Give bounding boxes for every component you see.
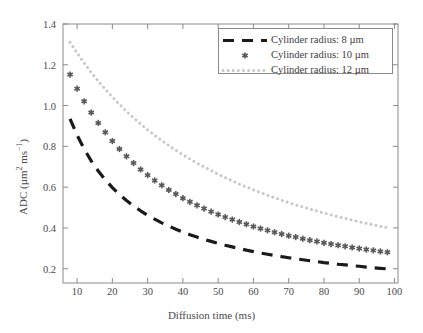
y-tick-label: 0.2 bbox=[43, 263, 56, 274]
x-axis-title: Diffusion time (ms) bbox=[0, 309, 423, 321]
x-tick-label: 10 bbox=[72, 286, 83, 297]
x-tick-label: 30 bbox=[142, 286, 153, 297]
x-tick-label: 40 bbox=[178, 286, 189, 297]
legend-label-2: Cylinder radius: 12 µm bbox=[271, 63, 369, 76]
y-tick-label: 0.8 bbox=[43, 141, 56, 152]
marker-asterisk bbox=[145, 172, 150, 178]
x-tick-label: 60 bbox=[248, 286, 259, 297]
marker-asterisk bbox=[138, 166, 143, 172]
marker-asterisk bbox=[81, 98, 86, 104]
marker-asterisk bbox=[307, 237, 312, 243]
y-tick-label: 0.6 bbox=[43, 182, 56, 193]
marker-asterisk bbox=[237, 219, 242, 225]
chart-figure: 0.20.40.60.81.01.21.4 102030405060708090… bbox=[0, 0, 423, 333]
legend-sample-glyph bbox=[219, 64, 271, 77]
marker-asterisk bbox=[215, 211, 220, 217]
marker-asterisk bbox=[74, 86, 79, 92]
legend-item-2[interactable]: Cylinder radius: 12 µm bbox=[219, 62, 392, 77]
marker-asterisk bbox=[173, 191, 178, 197]
legend-label-1: Cylinder radius: 10 µm bbox=[271, 48, 369, 61]
marker-asterisk bbox=[321, 240, 326, 246]
marker-asterisk bbox=[117, 146, 122, 152]
marker-asterisk bbox=[286, 233, 291, 239]
marker-asterisk bbox=[349, 244, 354, 250]
legend-sample-glyph bbox=[219, 34, 271, 47]
marker-asterisk bbox=[242, 52, 247, 58]
marker-asterisk bbox=[131, 160, 136, 166]
marker-asterisk bbox=[194, 202, 199, 208]
marker-asterisk bbox=[67, 71, 72, 77]
marker-asterisk bbox=[300, 236, 305, 242]
marker-asterisk bbox=[328, 241, 333, 247]
x-tick-label: 70 bbox=[283, 286, 294, 297]
x-tick-label: 100 bbox=[387, 286, 403, 297]
marker-asterisk bbox=[335, 242, 340, 248]
x-tick-label: 90 bbox=[354, 286, 365, 297]
marker-asterisk bbox=[124, 153, 129, 159]
legend-swatch-1 bbox=[219, 48, 271, 61]
marker-asterisk bbox=[364, 246, 369, 252]
marker-asterisk bbox=[314, 238, 319, 244]
legend-swatch-0 bbox=[219, 33, 271, 46]
marker-asterisk bbox=[152, 177, 157, 183]
y-tick-label: 1.0 bbox=[43, 100, 56, 111]
x-tick-label: 80 bbox=[319, 286, 330, 297]
marker-asterisk bbox=[159, 182, 164, 188]
marker-asterisk bbox=[385, 249, 390, 255]
marker-asterisk bbox=[279, 231, 284, 237]
marker-asterisk bbox=[110, 138, 115, 144]
marker-asterisk bbox=[96, 120, 101, 126]
marker-asterisk bbox=[371, 247, 376, 253]
y-axis-title-text: ADC (µm2 ms−1) bbox=[17, 139, 29, 215]
marker-asterisk bbox=[89, 109, 94, 115]
x-tick-label: 20 bbox=[107, 286, 118, 297]
x-tick-label: 50 bbox=[213, 286, 224, 297]
marker-asterisk bbox=[244, 221, 249, 227]
legend-swatch-2 bbox=[219, 63, 271, 76]
marker-asterisk bbox=[251, 223, 256, 229]
legend-sample-glyph bbox=[219, 49, 271, 62]
marker-asterisk bbox=[293, 234, 298, 240]
marker-asterisk bbox=[272, 229, 277, 235]
marker-asterisk bbox=[378, 248, 383, 254]
marker-asterisk bbox=[201, 205, 206, 211]
marker-asterisk bbox=[230, 216, 235, 222]
marker-asterisk bbox=[180, 195, 185, 201]
legend-item-0[interactable]: Cylinder radius: 8 µm bbox=[219, 32, 392, 47]
legend: Cylinder radius: 8 µmCylinder radius: 10… bbox=[218, 28, 393, 74]
marker-asterisk bbox=[187, 199, 192, 205]
y-tick-label: 1.2 bbox=[43, 59, 56, 70]
legend-label-0: Cylinder radius: 8 µm bbox=[271, 33, 364, 46]
y-tick-label: 0.4 bbox=[43, 222, 56, 233]
marker-asterisk bbox=[258, 225, 263, 231]
legend-item-1[interactable]: Cylinder radius: 10 µm bbox=[219, 47, 392, 62]
y-tick-label: 1.4 bbox=[43, 19, 56, 30]
marker-asterisk bbox=[208, 209, 213, 215]
marker-asterisk bbox=[357, 245, 362, 251]
y-axis-title: ADC (µm2 ms−1) bbox=[15, 139, 29, 215]
marker-asterisk bbox=[265, 227, 270, 233]
marker-asterisk bbox=[103, 129, 108, 135]
marker-asterisk bbox=[223, 214, 228, 220]
series-1-markers bbox=[67, 71, 390, 255]
marker-asterisk bbox=[342, 243, 347, 249]
marker-asterisk bbox=[166, 187, 171, 193]
